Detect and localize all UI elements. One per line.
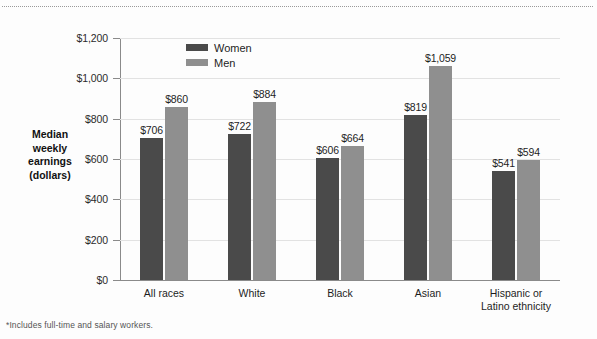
legend-swatch-women-icon xyxy=(186,44,208,51)
bar-value-label: $860 xyxy=(158,93,195,105)
bar-value-label: $664 xyxy=(334,132,371,144)
legend-swatch-men-icon xyxy=(186,59,208,66)
bar-men[interactable] xyxy=(341,146,364,280)
bar-value-label: $884 xyxy=(246,88,283,100)
y-axis-tick-mark xyxy=(113,78,120,79)
y-axis-tick-label: $600 xyxy=(44,153,108,165)
gridline xyxy=(120,38,560,39)
gridline xyxy=(120,78,560,79)
y-axis-tick-labels: $0$200$400$600$800$1,000$1,200 xyxy=(42,0,108,339)
y-axis-tick-label: $0 xyxy=(44,274,108,286)
y-axis-tick-mark xyxy=(113,119,120,120)
y-axis-tick-mark xyxy=(113,199,120,200)
bar-women[interactable] xyxy=(140,138,163,280)
y-axis-tick-label: $1,000 xyxy=(44,72,108,84)
y-axis-tick-label: $800 xyxy=(44,113,108,125)
y-axis-tick-mark xyxy=(113,159,120,160)
legend-label-women: Women xyxy=(214,42,252,54)
y-axis-tick-mark xyxy=(113,280,120,281)
bar-women[interactable] xyxy=(228,134,251,280)
legend-item-men: Men xyxy=(186,56,252,69)
bar-men[interactable] xyxy=(253,102,276,280)
plot-area: $706$860$722$884$606$664$819$1,059$541$5… xyxy=(120,38,560,280)
y-axis-tick-label: $1,200 xyxy=(44,32,108,44)
y-axis-tick-label: $200 xyxy=(44,234,108,246)
chart-footnote: *Includes full-time and salary workers. xyxy=(6,320,153,330)
y-axis-tick-mark xyxy=(113,240,120,241)
bar-women[interactable] xyxy=(316,158,339,280)
y-axis-tick-mark xyxy=(113,38,120,39)
bar-men[interactable] xyxy=(165,107,188,280)
x-axis-category-label-line: Hispanic or xyxy=(461,287,571,300)
gridline xyxy=(120,280,560,281)
legend-item-women: Women xyxy=(186,41,252,54)
bar-value-label: $594 xyxy=(510,146,547,158)
bar-women[interactable] xyxy=(404,115,427,280)
x-axis-category-label-line: Latino ethnicity xyxy=(461,300,571,313)
bar-men[interactable] xyxy=(429,66,452,280)
bar-women[interactable] xyxy=(492,171,515,280)
x-axis-category-label: Hispanic orLatino ethnicity xyxy=(461,287,571,313)
legend-label-men: Men xyxy=(214,57,235,69)
bar-men[interactable] xyxy=(517,160,540,280)
bar-value-label: $1,059 xyxy=(422,52,459,64)
chart-figure: Median weekly earnings (dollars) $0$200$… xyxy=(0,0,597,339)
chart-legend: Women Men xyxy=(186,41,252,71)
y-axis-tick-label: $400 xyxy=(44,193,108,205)
